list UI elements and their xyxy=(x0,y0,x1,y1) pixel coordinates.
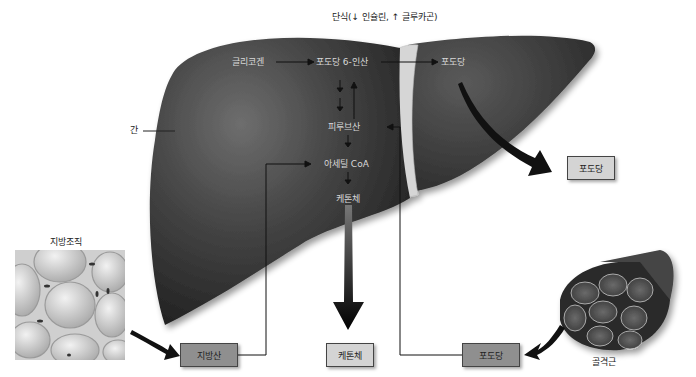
skeletal-muscle-illustration xyxy=(560,250,674,350)
diagram-title: 단식(↓ 인슐린, ↑ 글루카곤) xyxy=(332,10,438,23)
liver-ketone-label: 케톤체 xyxy=(336,195,360,204)
adipose-tissue-label: 지방조직 xyxy=(50,238,82,247)
adipose-to-fatty-acid-arrow xyxy=(130,330,180,360)
acetyl-coa-label: 아세틸 CoA xyxy=(324,160,369,169)
liver-glucose-label: 포도당 xyxy=(441,58,465,67)
pyruvate-label: 피루브산 xyxy=(328,123,360,132)
liver-label: 간 xyxy=(130,126,138,135)
muscle-to-glucose-arrow xyxy=(524,325,565,360)
skeletal-muscle-label: 골격근 xyxy=(592,358,616,367)
glucose-6-phosphate-label: 포도당 6-인산 xyxy=(316,58,368,67)
fatty-acid-box: 지방산 xyxy=(180,343,238,367)
muscle-glucose-box: 포도당 xyxy=(462,343,520,367)
ketone-body-box: 케톤체 xyxy=(326,343,374,367)
liver-fasting-metabolism-diagram: 단식(↓ 인슐린, ↑ 글루카곤) 간 지방조직 골격근 글리코겐 포도당 6-… xyxy=(0,0,696,377)
liver-illustration xyxy=(150,36,595,325)
glucose-output-box: 포도당 xyxy=(567,156,615,180)
glycogen-label: 글리코겐 xyxy=(232,58,264,67)
adipose-tissue-illustration xyxy=(4,242,133,366)
